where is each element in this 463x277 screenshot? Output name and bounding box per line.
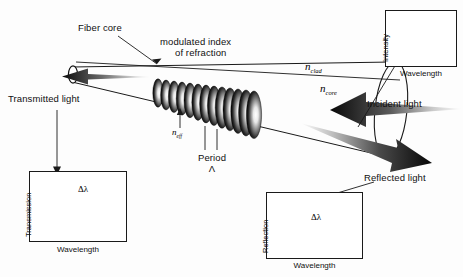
grating-planes-group <box>153 79 262 139</box>
reflection-y-axis-label: Reflection <box>261 220 270 253</box>
transmission-x-axis-label: Wavelength <box>29 245 127 254</box>
reflected-beam-arrow <box>300 123 432 172</box>
fiber-bragg-grating-diagram: Fiber core modulated index of refraction… <box>0 0 463 277</box>
reflection-delta-lambda-label: Δλ <box>311 212 321 222</box>
period-label: Period <box>194 152 230 163</box>
incident-light-label: Incident light <box>367 98 422 109</box>
intensity-y-axis-label: Intensity <box>381 34 390 62</box>
transmission-delta-lambda-label: Δλ <box>78 184 88 194</box>
n-core-subscript: core <box>326 89 337 96</box>
period-symbol: Λ <box>209 163 215 174</box>
fiber-core-label: Fiber core <box>78 22 122 33</box>
period-word: Period <box>198 152 226 163</box>
n-core-symbol: ncore <box>320 82 337 96</box>
reflection-x-axis-label: Wavelength <box>266 261 363 270</box>
transmitted-light-label: Transmitted light <box>8 93 80 104</box>
intensity-x-axis-label: Wavelength <box>385 69 457 78</box>
reflected-light-label: Reflected light <box>364 172 426 183</box>
transmission-spectrum-plot <box>29 171 127 242</box>
modulated-index-label-line2: of refraction <box>175 47 226 58</box>
n-clad-symbol: nclad <box>305 60 322 74</box>
reflection-spectrum-plot <box>266 192 363 259</box>
n-eff-subscript: eff <box>177 133 183 139</box>
period-symbol-label: Λ <box>194 163 230 174</box>
transmission-y-axis-label: Transmission <box>24 193 33 237</box>
n-clad-subscript: clad <box>311 67 322 74</box>
modulated-index-label-line1: modulated index <box>160 36 231 47</box>
incident-spectrum-plot <box>385 10 457 67</box>
n-eff-symbol: neff <box>172 127 182 139</box>
